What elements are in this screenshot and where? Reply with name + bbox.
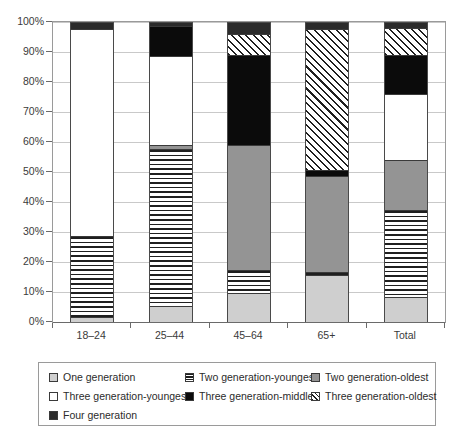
three-generation-oldest-swatch (311, 392, 320, 401)
segment-four[interactable] (228, 23, 270, 35)
segment-four[interactable] (306, 23, 348, 30)
segment-one[interactable] (385, 298, 427, 322)
segment-four[interactable] (385, 23, 427, 29)
bar-45-64[interactable] (227, 22, 271, 322)
segment-twoy[interactable] (306, 273, 348, 276)
bar-18-24[interactable] (70, 22, 114, 322)
legend-item-one[interactable]: One generation (49, 371, 135, 383)
y-tick-label-50: 50% (23, 165, 44, 177)
segment-threey[interactable] (71, 30, 113, 236)
segment-threem[interactable] (385, 56, 427, 95)
y-tick-label-40: 40% (23, 195, 44, 207)
legend-label: Four generation (63, 409, 137, 421)
segment-one[interactable] (228, 294, 270, 322)
three-generation-youngest-swatch (49, 392, 58, 401)
legend-label: Two generation-youngest (199, 371, 317, 383)
bar-total[interactable] (384, 22, 428, 322)
segment-twoy[interactable] (150, 150, 192, 307)
x-tick-mark-3 (287, 323, 288, 328)
y-tick-label-10: 10% (23, 285, 44, 297)
y-tick-label-20: 20% (23, 255, 44, 267)
legend-item-twoo[interactable]: Two generation-oldest (311, 371, 428, 383)
x-tick-mark-end (444, 323, 445, 328)
four-generation-swatch (49, 411, 58, 420)
x-tick-mark-2 (209, 323, 210, 328)
bar-group (53, 22, 445, 322)
legend-label: Three generation-oldest (325, 390, 437, 402)
segment-four[interactable] (71, 23, 113, 30)
x-tick-label-65-: 65+ (317, 329, 335, 341)
segment-one[interactable] (71, 318, 113, 322)
x-tick-label-45-64: 45–64 (233, 329, 262, 341)
legend-label: Three generation-middle (199, 390, 313, 402)
y-tick-label-70: 70% (23, 105, 44, 117)
y-tick-label-90: 90% (23, 45, 44, 57)
segment-one[interactable] (306, 276, 348, 322)
segment-twoo[interactable] (385, 161, 427, 212)
x-tick-mark-4 (366, 323, 367, 328)
legend-item-threey[interactable]: Three generation-youngest (49, 390, 189, 402)
segment-twoo[interactable] (306, 177, 348, 273)
y-tick-label-100: 100% (17, 15, 44, 27)
legend-item-threem[interactable]: Three generation-middle (185, 390, 313, 402)
two-generation-youngest-swatch (185, 373, 194, 382)
segment-threey[interactable] (385, 95, 427, 161)
legend: One generationTwo generation-youngestTwo… (38, 362, 436, 426)
y-tick-label-0: 0% (29, 315, 44, 327)
legend-item-twoy[interactable]: Two generation-youngest (185, 371, 317, 383)
legend-label: One generation (63, 371, 135, 383)
legend-label: Two generation-oldest (325, 371, 428, 383)
segment-threem[interactable] (228, 56, 270, 146)
plot-area (52, 21, 446, 323)
y-tick-label-30: 30% (23, 225, 44, 237)
y-tick-label-60: 60% (23, 135, 44, 147)
y-tick-label-80: 80% (23, 75, 44, 87)
segment-threem[interactable] (150, 27, 192, 57)
legend-item-threeo[interactable]: Three generation-oldest (311, 390, 437, 402)
segment-twoy[interactable] (71, 237, 113, 318)
x-tick-label-25-44: 25–44 (155, 329, 184, 341)
stacked-bar-chart: 0%10%20%30%40%50%60%70%80%90%100% 18–242… (0, 0, 470, 440)
y-axis: 0%10%20%30%40%50%60%70%80%90%100% (0, 21, 52, 323)
segment-twoo[interactable] (228, 146, 270, 272)
x-tick-label-18-24: 18–24 (77, 329, 106, 341)
segment-one[interactable] (150, 307, 192, 322)
three-generation-middle-swatch (185, 392, 194, 401)
segment-four[interactable] (150, 23, 192, 27)
bar-25-44[interactable] (149, 22, 193, 322)
legend-items: One generationTwo generation-youngestTwo… (39, 363, 435, 425)
two-generation-oldest-swatch (311, 373, 320, 382)
segment-twoy[interactable] (385, 211, 427, 298)
segment-threem[interactable] (306, 171, 348, 177)
x-tick-label-total: Total (394, 329, 416, 341)
one-generation-swatch (49, 373, 58, 382)
x-axis: 18–2425–4445–6465+Total (52, 323, 446, 345)
segment-threeo[interactable] (385, 29, 427, 56)
segment-threeo[interactable] (228, 35, 270, 56)
legend-label: Three generation-youngest (63, 390, 189, 402)
legend-item-four[interactable]: Four generation (49, 409, 137, 421)
segment-twoo[interactable] (150, 146, 192, 150)
segment-twoy[interactable] (228, 271, 270, 293)
bar-65-[interactable] (305, 22, 349, 322)
x-tick-mark-0 (52, 323, 53, 328)
x-tick-mark-1 (130, 323, 131, 328)
segment-threeo[interactable] (306, 30, 348, 171)
segment-threey[interactable] (150, 57, 192, 145)
